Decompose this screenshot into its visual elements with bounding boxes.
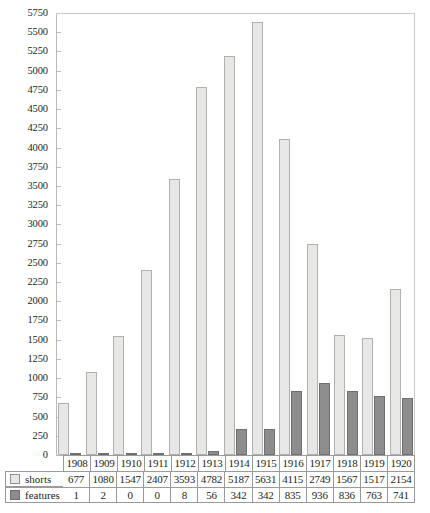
shorts-value-cell: 1567	[334, 471, 361, 487]
y-axis-tick-label: 4000	[27, 143, 48, 153]
bar-column-1909	[84, 13, 112, 455]
year-cell: 1919	[361, 455, 388, 471]
bar-column-1908	[56, 13, 84, 455]
shorts-value-cell: 5631	[253, 471, 280, 487]
bar-column-1912	[166, 13, 194, 455]
bar-shorts-1908	[58, 403, 69, 455]
features-value-cells: 1200856342342835936836763741	[63, 487, 415, 503]
year-cell: 1917	[307, 455, 334, 471]
shorts-value-cells: 6771080154724073593478251875631411527491…	[63, 471, 415, 487]
year-cell: 1915	[253, 455, 280, 471]
shorts-value-cell: 4115	[280, 471, 307, 487]
features-value-cell: 741	[388, 487, 415, 503]
features-value-cell: 0	[144, 487, 171, 503]
year-cell: 1912	[172, 455, 199, 471]
bar-features-1919	[374, 396, 385, 455]
bar-column-1915	[249, 13, 277, 455]
table-row: shorts 677108015472407359347825187563141…	[5, 471, 415, 487]
y-axis-tick-label: 500	[33, 412, 48, 422]
features-value-cell: 763	[361, 487, 388, 503]
shorts-value-cell: 2749	[307, 471, 334, 487]
y-axis-tick-label: 3000	[27, 219, 48, 229]
bar-column-1920	[387, 13, 415, 455]
plot-area: 5750550052505000475045004250400037503500…	[0, 0, 430, 462]
year-cell: 1910	[118, 455, 145, 471]
features-value-cell: 8	[171, 487, 198, 503]
y-axis-tick-label: 1500	[27, 335, 48, 345]
y-axis-tick-labels: 5750550052505000475045004250400037503500…	[0, 0, 48, 462]
y-axis-tick-label: 3500	[27, 181, 48, 191]
y-axis-tick-label: 1250	[27, 354, 48, 364]
year-cell: 1909	[91, 455, 118, 471]
features-value-cell: 836	[334, 487, 361, 503]
year-cell: 1918	[334, 455, 361, 471]
y-axis-tick-label: 1000	[27, 373, 48, 383]
bar-shorts-1909	[86, 372, 97, 455]
bar-group-container	[56, 13, 415, 455]
y-axis-tick-label: 5750	[27, 8, 48, 18]
features-value-cell: 835	[280, 487, 307, 503]
bar-features-1916	[291, 391, 302, 455]
bar-column-1913	[194, 13, 222, 455]
year-cell: 1914	[226, 455, 253, 471]
bar-column-1910	[111, 13, 139, 455]
bar-column-1916	[277, 13, 305, 455]
bar-features-1917	[319, 383, 330, 455]
legend-label-features: features	[25, 489, 60, 501]
shorts-value-cell: 677	[63, 471, 90, 487]
features-value-cell: 936	[307, 487, 334, 503]
shorts-value-cell: 1517	[361, 471, 388, 487]
bar-features-1918	[347, 391, 358, 455]
legend-item-shorts: shorts	[5, 471, 63, 487]
y-axis-tick-label: 5500	[27, 27, 48, 37]
bar-chart-figure: 5750550052505000475045004250400037503500…	[0, 0, 430, 513]
bar-shorts-1911	[141, 270, 152, 455]
legend-item-features: features	[5, 487, 63, 503]
bar-shorts-1916	[279, 139, 290, 455]
y-axis-tick-label: 5250	[27, 46, 48, 56]
shorts-value-cell: 3593	[171, 471, 198, 487]
features-value-cell: 56	[198, 487, 225, 503]
y-axis-tick-label: 250	[33, 431, 48, 441]
bar-shorts-1914	[224, 56, 235, 455]
year-header-cells: 1908190919101911191219131914191519161917…	[63, 455, 415, 471]
year-cell: 1920	[388, 455, 415, 471]
features-value-cell: 2	[90, 487, 117, 503]
features-value-cell: 0	[117, 487, 144, 503]
bar-column-1919	[360, 13, 388, 455]
bar-shorts-1917	[307, 244, 318, 455]
bar-column-1914	[222, 13, 250, 455]
features-value-cell: 342	[225, 487, 252, 503]
bar-column-1918	[332, 13, 360, 455]
bar-features-1915	[264, 429, 275, 455]
y-axis-tick-label: 3750	[27, 162, 48, 172]
y-axis-tick-label: 750	[33, 392, 48, 402]
features-swatch-icon	[10, 490, 20, 500]
shorts-value-cell: 5187	[225, 471, 252, 487]
features-value-cell: 1	[63, 487, 90, 503]
table-corner-cell	[5, 455, 63, 471]
bar-features-1920	[402, 398, 413, 455]
shorts-value-cell: 1080	[90, 471, 117, 487]
bar-shorts-1915	[252, 22, 263, 455]
shorts-value-cell: 4782	[198, 471, 225, 487]
shorts-value-cell: 1547	[117, 471, 144, 487]
y-axis-tick-label: 2000	[27, 296, 48, 306]
bar-shorts-1912	[169, 179, 180, 455]
table-header-row: 1908190919101911191219131914191519161917…	[5, 455, 415, 471]
y-axis-tick-label: 4750	[27, 85, 48, 95]
bar-features-1914	[236, 429, 247, 455]
year-cell: 1916	[280, 455, 307, 471]
legend-label-shorts: shorts	[25, 473, 51, 485]
data-table: 1908190919101911191219131914191519161917…	[5, 455, 415, 503]
table-row: features 1200856342342835936836763741	[5, 487, 415, 503]
bar-shorts-1919	[362, 338, 373, 455]
shorts-swatch-icon	[10, 474, 20, 484]
y-axis-tick-label: 2250	[27, 277, 48, 287]
features-value-cell: 342	[253, 487, 280, 503]
bar-shorts-1910	[113, 336, 124, 455]
bar-shorts-1913	[196, 87, 207, 455]
y-axis-tick-label: 5000	[27, 66, 48, 76]
y-axis-tick-label: 1750	[27, 315, 48, 325]
year-cell: 1911	[145, 455, 172, 471]
